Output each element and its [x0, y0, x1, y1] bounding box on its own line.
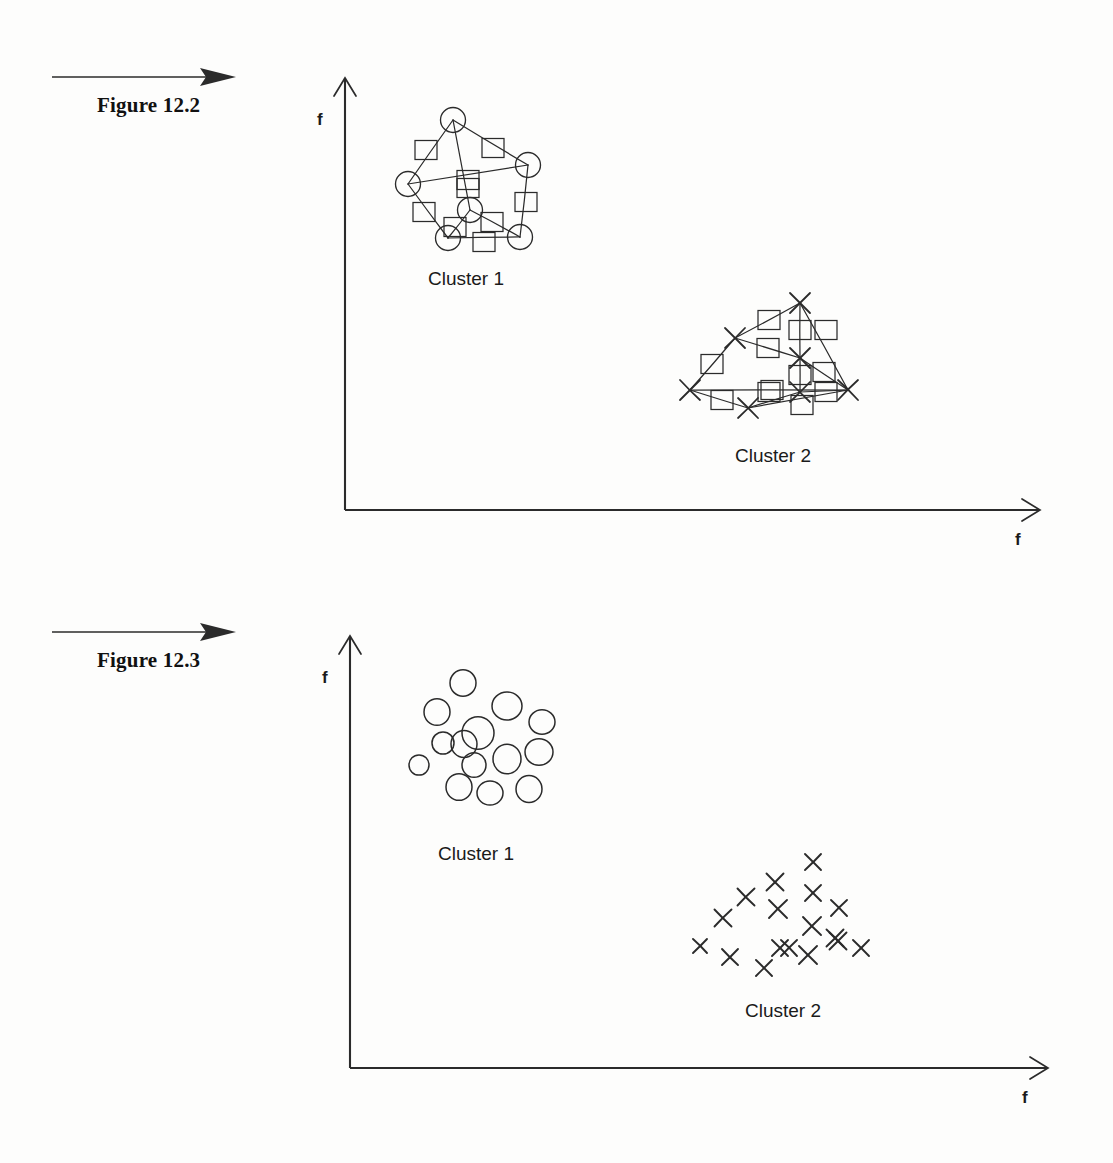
cluster-point-circle [529, 710, 555, 734]
cluster-point-circle [409, 755, 429, 775]
edge-weight-box [482, 139, 504, 158]
cluster-point-cross [715, 910, 732, 927]
cluster-point-cross [853, 940, 869, 956]
graph-edge [408, 184, 448, 238]
cluster-point-circle [492, 692, 522, 720]
cluster-point-circle [477, 781, 503, 805]
cluster-point-cross [799, 946, 817, 964]
edge-weight-box [515, 193, 537, 212]
cluster-point-circle [462, 717, 494, 750]
graph-edge [408, 165, 528, 184]
cluster-point-circle [424, 699, 450, 726]
cluster-point-cross [767, 874, 784, 891]
cluster-point-circle [493, 744, 521, 773]
axis-group [334, 78, 1040, 521]
graph-edge [453, 120, 470, 210]
page-canvas: Figure 12.2 f f Cluster 1 Cluster 2 Figu… [0, 0, 1113, 1163]
cluster-point-cross [781, 940, 797, 956]
cluster-point-cross [693, 939, 707, 953]
figure-12-3-plot [0, 600, 1113, 1163]
figure-12-2: Figure 12.2 f f Cluster 1 Cluster 2 [0, 0, 1113, 600]
graph-edge [800, 303, 848, 390]
cluster-point-circle [451, 730, 477, 757]
cluster-node-cross [725, 328, 745, 348]
figure-12-3: Figure 12.3 f f Cluster 1 Cluster 2 [0, 600, 1113, 1163]
cluster-point-circle [462, 753, 486, 778]
cluster-point-cross [831, 900, 847, 916]
cluster-point-cross [805, 885, 821, 901]
edge-weight-box [473, 233, 495, 252]
cluster-point-circle [516, 776, 542, 803]
cluster-point-cross [772, 940, 788, 956]
cluster-point-circle [450, 670, 476, 697]
cluster-node-cross [738, 398, 758, 418]
cluster-point-cross [805, 854, 821, 870]
cluster-point-cross [769, 900, 787, 918]
point-cloud-2 [693, 854, 869, 976]
edge-weight-box [457, 179, 479, 198]
figure-12-2-plot [0, 0, 1113, 600]
cluster-point-cross [803, 917, 821, 935]
cluster-point-circle [446, 774, 472, 801]
graph-edge [448, 210, 470, 238]
cluster-point-cross [722, 949, 738, 965]
edge-weight-box [415, 141, 437, 160]
graph-edge [448, 237, 520, 238]
point-cloud-1 [409, 670, 555, 805]
cluster-point-circle [525, 739, 553, 766]
cluster-graph-2 [680, 293, 858, 418]
cluster-graph-1 [396, 108, 541, 252]
cluster-point-cross [738, 889, 755, 906]
cluster-point-cross [756, 960, 772, 976]
